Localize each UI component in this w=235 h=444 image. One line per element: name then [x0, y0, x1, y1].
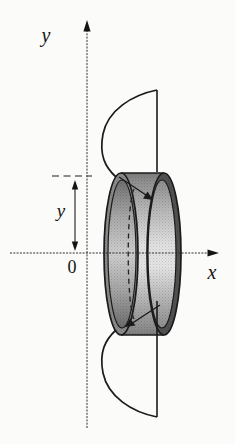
x-axis-label: x — [207, 261, 217, 283]
upper-curve — [102, 90, 157, 177]
lower-curve — [102, 330, 157, 417]
origin-label: 0 — [68, 257, 77, 277]
solid-of-revolution-figure: y x 0 y — [0, 0, 235, 444]
radius-arrowhead-down-icon — [72, 242, 78, 252]
y-axis — [83, 20, 90, 428]
y-axis-arrowhead-icon — [83, 20, 90, 32]
y-axis-label: y — [40, 24, 51, 47]
figure-canvas: y x 0 y — [0, 0, 235, 444]
x-axis-arrowhead-icon — [208, 249, 220, 256]
radius-arrowhead-up-icon — [72, 180, 78, 190]
shell-halftone-texture — [104, 173, 181, 335]
cylindrical-shell — [104, 173, 181, 335]
shell-radius-label: y — [55, 200, 66, 221]
